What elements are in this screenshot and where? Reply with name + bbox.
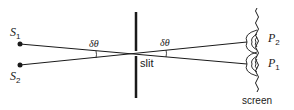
diagram-canvas: [0, 0, 294, 110]
slit-label: slit: [140, 58, 153, 69]
source-2-label: S2: [10, 70, 20, 85]
angle-label-right: δθ: [160, 38, 170, 48]
source-2-dot: [18, 63, 23, 68]
screen-label: screen: [242, 96, 272, 106]
source-1-dot: [18, 42, 23, 47]
source-1-label: S1: [10, 26, 20, 41]
point-1-label: P1: [268, 57, 280, 72]
ray-s2-to-p2: [20, 42, 247, 65]
angle-arc-left: [96, 51, 97, 58]
point-2-label: P2: [268, 32, 280, 47]
angle-label-left: δθ: [89, 39, 99, 49]
angle-arc-right: [166, 50, 167, 57]
